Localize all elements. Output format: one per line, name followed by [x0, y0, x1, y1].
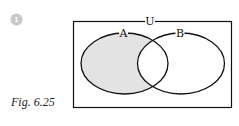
- universe-label: U: [145, 15, 154, 28]
- set-b-label: B: [176, 27, 184, 40]
- venn-diagram-figure: 1 U A B Fig. 6.25: [0, 0, 239, 126]
- set-b-ellipse: [138, 33, 225, 94]
- question-number: 1: [15, 16, 19, 23]
- set-a-label: A: [119, 27, 129, 40]
- question-number-badge: 1: [11, 14, 23, 26]
- figure-caption: Fig. 6.25: [10, 95, 55, 109]
